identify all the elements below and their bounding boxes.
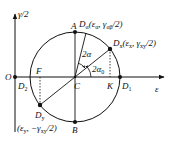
label-C: C [74,81,81,91]
label-D1: D1 [121,81,132,92]
label-A: A [70,21,77,31]
angle-arc-2alpha [78,63,85,68]
mohr-circle-diagram: γ/2 ε O A B C F K D1 D2 Dα(εα, γαβ/2) Dx… [0,0,170,142]
point-O [13,75,17,79]
angle-label-2alpha0: 2α0 [92,64,104,75]
label-B: B [72,125,78,135]
x-axis-label: ε [155,84,159,94]
label-K: K [106,81,114,91]
point-C [74,76,76,78]
label-D2: D2 [17,81,28,92]
point-Dx [108,47,112,51]
point-B [73,120,77,124]
angle-label-2alpha: 2α [82,49,92,59]
point-Dy [38,103,42,107]
label-Dy: Dy [34,110,45,121]
label-Dx: Dx(εx, γxy/2) [112,38,156,49]
label-Da: Dα(εα, γαβ/2) [78,19,123,30]
angle-arc-2alpha0 [88,68,91,77]
label-F: F [35,66,42,76]
y-axis-label: γ/2 [18,9,29,19]
origin-label: O [5,72,12,82]
point-D1 [118,75,122,79]
label-Dy-coords: (εy, −γxy/2) [17,123,57,134]
